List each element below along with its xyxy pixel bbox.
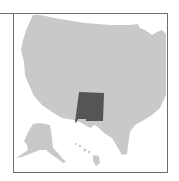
- new-mexico: [75, 92, 104, 123]
- us-locator-map: [0, 0, 179, 181]
- map-svg: [0, 0, 179, 181]
- alaska: [16, 123, 66, 163]
- hawaii: [75, 143, 100, 166]
